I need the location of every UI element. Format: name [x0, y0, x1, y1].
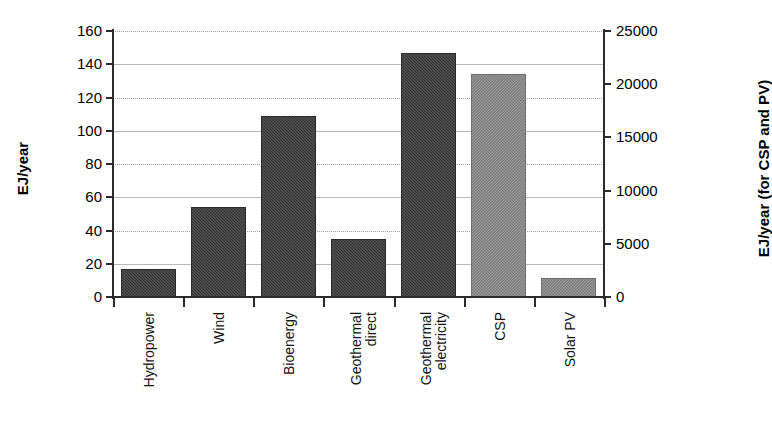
left-axis-tick-label: 120: [77, 90, 102, 105]
gridline: [113, 197, 604, 198]
bar: [471, 74, 526, 297]
bar: [401, 53, 456, 297]
plot-area: [113, 31, 604, 297]
left-axis-tick-label: 60: [85, 189, 102, 204]
left-axis-tickmark: [106, 296, 113, 298]
gridline: [113, 98, 604, 99]
gridline: [113, 231, 604, 232]
gridline: [113, 131, 604, 132]
right-axis-tick-label: 10000: [616, 183, 658, 198]
left-axis-tick-label: 140: [77, 56, 102, 71]
left-axis-tickmark: [106, 97, 113, 99]
right-axis-tick-label: 5000: [616, 236, 649, 251]
x-axis-label: Bioenergy: [282, 312, 297, 375]
left-axis-tick-label: 80: [85, 156, 102, 171]
right-axis-title: EJ/year (for CSP and PV): [755, 24, 772, 314]
x-axis-label: Solar PV: [563, 312, 578, 367]
x-axis-tickmark: [394, 298, 396, 307]
right-axis-tick-label: 20000: [616, 76, 658, 91]
right-axis-tick-label: 0: [616, 289, 624, 304]
right-axis-tickmark: [604, 83, 611, 85]
right-axis-tickmark: [604, 30, 611, 32]
gridline: [113, 31, 604, 32]
right-axis-tick-label: 15000: [616, 129, 658, 144]
left-axis-tickmark: [106, 63, 113, 65]
left-axis-tickmark: [106, 130, 113, 132]
left-axis-ticks: 160140120100806040200: [40, 31, 102, 297]
right-axis-ticks: 2500020000150001000050000: [616, 31, 696, 297]
x-axis-tickmark: [323, 298, 325, 307]
x-axis-line: [112, 296, 605, 298]
x-axis-label: Hydropower: [142, 312, 157, 387]
x-axis-label: Geothermaldirect: [349, 312, 379, 385]
left-axis-tickmark: [106, 230, 113, 232]
left-axis-tick-label: 100: [77, 123, 102, 138]
x-axis-tickmark: [113, 298, 115, 307]
x-axis-label: CSP: [493, 312, 508, 341]
left-axis-title: EJ/year: [14, 104, 31, 234]
left-axis-tickmark: [106, 196, 113, 198]
left-axis-tickmark: [106, 30, 113, 32]
bar: [191, 207, 246, 297]
x-axis-tickmark: [464, 298, 466, 307]
bar: [121, 269, 176, 297]
x-axis-label: Wind: [212, 312, 227, 344]
x-axis-tickmark: [604, 298, 606, 307]
left-axis-tick-label: 40: [85, 223, 102, 238]
x-axis-tickmark: [253, 298, 255, 307]
x-axis-tickmark: [534, 298, 536, 307]
gridline: [113, 164, 604, 165]
bar: [541, 278, 596, 297]
left-axis-tickmark: [106, 163, 113, 165]
gridline: [113, 64, 604, 65]
bar: [331, 239, 386, 297]
right-axis-tickmark: [604, 136, 611, 138]
x-axis-tickmark: [183, 298, 185, 307]
x-axis-label: Geothermalelectricity: [419, 312, 449, 385]
right-axis-tickmark: [604, 190, 611, 192]
bar: [261, 116, 316, 297]
secondary-y-axis-line: [603, 29, 605, 299]
left-axis-tickmark: [106, 263, 113, 265]
left-axis-tick-label: 160: [77, 23, 102, 38]
right-axis-tick-label: 25000: [616, 23, 658, 38]
right-axis-tickmark: [604, 243, 611, 245]
left-axis-tick-label: 20: [85, 256, 102, 271]
left-axis-tick-label: 0: [94, 289, 102, 304]
